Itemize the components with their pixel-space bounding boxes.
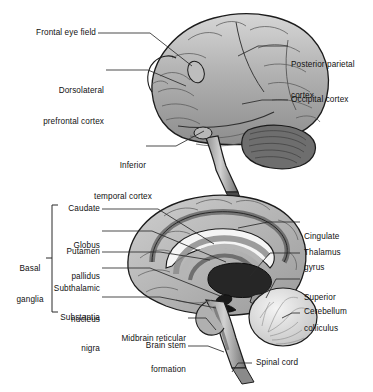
label-caudate: Caudate xyxy=(36,204,100,214)
label-putamen: Putamen xyxy=(36,247,100,257)
label-superior-colliculus-line2: colliculus xyxy=(304,324,373,334)
label-cerebellum: Cerebellum xyxy=(304,307,373,317)
label-inferior-temporal-cortex-line1: Inferior xyxy=(84,161,162,171)
midbrain-lateral xyxy=(194,127,212,139)
label-dorsolateral-prefrontal-cortex-line2: prefrontal cortex xyxy=(8,117,104,127)
label-inferior-temporal-cortex-line2: temporal cortex xyxy=(84,192,162,202)
label-brain-stem: Brain stem xyxy=(104,341,186,351)
label-thalamus: Thalamus xyxy=(304,248,373,258)
label-superior-colliculus-line1: Superior xyxy=(304,293,373,303)
spinal-cord-medial xyxy=(232,368,254,384)
brain-anatomy-figure: Frontal eye field Dorsolateral prefronta… xyxy=(0,0,373,392)
label-midbrain-reticular-formation: Midbrain reticular formation xyxy=(92,313,186,392)
label-occipital-cortex: Occipital cortex xyxy=(291,95,373,105)
label-dorsolateral-prefrontal-cortex-line1: Dorsolateral xyxy=(8,86,104,96)
label-midbrain-reticular-formation-line2: formation xyxy=(92,365,186,375)
label-posterior-parietal-cortex-line1: Posterior parietal xyxy=(291,60,373,70)
label-cingulate-gyrus-line1: Cingulate xyxy=(304,232,373,242)
label-dorsolateral-prefrontal-cortex: Dorsolateral prefrontal cortex xyxy=(8,65,104,148)
label-substantia-nigra-line1: Substantia xyxy=(28,313,100,323)
label-frontal-eye-field: Frontal eye field xyxy=(10,28,96,38)
label-substantia-nigra: Substantia nigra xyxy=(28,292,100,375)
label-spinal-cord: Spinal cord xyxy=(256,358,336,368)
label-posterior-parietal-cortex: Posterior parietal cortex xyxy=(291,39,373,122)
label-substantia-nigra-line2: nigra xyxy=(28,344,100,354)
cerebellum-lateral xyxy=(242,125,316,169)
